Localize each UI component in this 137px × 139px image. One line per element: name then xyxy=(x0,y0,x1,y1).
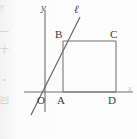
figure-canvas xyxy=(0,0,137,139)
x-axis-label: x xyxy=(128,85,132,93)
y-axis-label: y xyxy=(41,2,46,13)
point-label-d: D xyxy=(108,95,116,106)
point-label-c: C xyxy=(110,29,117,40)
line-l-label: ℓ xyxy=(74,4,79,15)
point-label-o: O xyxy=(37,95,45,106)
point-label-a: A xyxy=(57,95,65,106)
point-label-b: B xyxy=(55,29,62,40)
math-figure: y 一 于 ・ 回 y x ℓ B C A D O xyxy=(0,0,137,139)
